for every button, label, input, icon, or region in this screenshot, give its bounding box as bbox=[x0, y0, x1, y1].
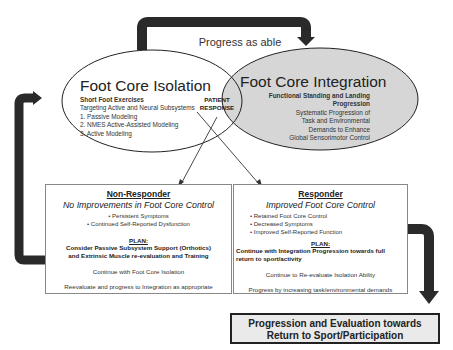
isolation-subtitle: Short Foot Exercises bbox=[80, 96, 144, 103]
responder-bullets: Retained Foot Core Control Decreased Sym… bbox=[234, 212, 407, 236]
responder-status: Improved Foot Core Control bbox=[234, 200, 407, 210]
integration-text: Foot Core Integration Functional Standin… bbox=[240, 73, 370, 142]
responder-heading: Responder bbox=[234, 189, 407, 199]
non-responder-heading: Non-Responder bbox=[46, 189, 231, 199]
integration-line: Demands to Enhance bbox=[240, 126, 370, 134]
isolation-line: Targeting Active and Neural Subsystems bbox=[80, 104, 211, 112]
non-responder-plan-label: PLAN: bbox=[46, 237, 231, 244]
non-responder-status: No Improvements in Foot Core Control bbox=[46, 200, 231, 210]
diagram-graphics bbox=[0, 0, 453, 350]
integration-line: Systematic Progression of bbox=[240, 109, 370, 117]
return-arrow bbox=[19, 98, 48, 260]
isolation-line: 3. Active Modeling bbox=[80, 130, 211, 138]
final-outcome-box: Progression and Evaluation towards Retur… bbox=[230, 313, 440, 344]
down-arrow bbox=[408, 229, 429, 292]
integration-line: Global Sensorimotor Control bbox=[240, 134, 370, 142]
isolation-title: Foot Core Isolation bbox=[80, 77, 211, 95]
isolation-text: Foot Core Isolation Short Foot Exercises… bbox=[80, 77, 211, 138]
progress-label: Progress as able bbox=[180, 36, 300, 48]
isolation-line: 2. NMES Active-Assisted Modeling bbox=[80, 121, 211, 129]
integration-subtitle: Progression bbox=[333, 100, 370, 107]
non-responder-box: Non-Responder No Improvements in Foot Co… bbox=[45, 184, 232, 294]
responder-plan-label: PLAN: bbox=[234, 240, 407, 247]
isolation-line: 1. Passive Modeling bbox=[80, 113, 211, 121]
patient-response-label: PATIENT RESPONSE bbox=[193, 96, 241, 112]
integration-title: Foot Core Integration bbox=[240, 73, 370, 91]
integration-subtitle: Functional Standing and Landing bbox=[269, 92, 370, 99]
responder-box: Responder Improved Foot Core Control Ret… bbox=[233, 184, 408, 294]
non-responder-bullets: Persistent Symptoms Continued Self-Repor… bbox=[46, 212, 231, 228]
integration-line: Task and Environmental bbox=[240, 117, 370, 125]
